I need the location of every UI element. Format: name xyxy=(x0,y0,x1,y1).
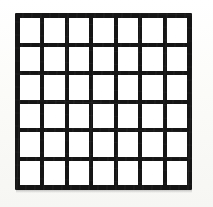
grid-cell-r5-c6 xyxy=(142,132,162,157)
grid-cell-r5-c7 xyxy=(167,132,187,157)
grid-cell-r6-c1 xyxy=(20,161,40,186)
grid-cell-r1-c1 xyxy=(20,18,40,43)
grid-cell-r3-c2 xyxy=(44,75,64,100)
grid-cell-r2-c2 xyxy=(44,47,64,72)
grid-cell-r4-c3 xyxy=(69,104,89,129)
grid-cell-r2-c5 xyxy=(118,47,138,72)
grid-cell-r1-c4 xyxy=(93,18,113,43)
grid-cell-r3-c3 xyxy=(69,75,89,100)
grid-cell-r1-c3 xyxy=(69,18,89,43)
grid-cell-r4-c1 xyxy=(20,104,40,129)
grid-cell-r2-c3 xyxy=(69,47,89,72)
figure-page xyxy=(0,0,213,207)
grid-cell-r3-c7 xyxy=(167,75,187,100)
grid-cell-r2-c4 xyxy=(93,47,113,72)
grid-cell-r5-c3 xyxy=(69,132,89,157)
grid-cell-r3-c1 xyxy=(20,75,40,100)
grid-cell-r1-c5 xyxy=(118,18,138,43)
grid-cell-r1-c2 xyxy=(44,18,64,43)
grid-cell-r3-c6 xyxy=(142,75,162,100)
grid-cell-r4-c2 xyxy=(44,104,64,129)
grid-cell-r1-c7 xyxy=(167,18,187,43)
grid-cell-r3-c4 xyxy=(93,75,113,100)
grid-cell-r5-c1 xyxy=(20,132,40,157)
grid-cell-r5-c2 xyxy=(44,132,64,157)
grid-cell-r6-c4 xyxy=(93,161,113,186)
grid-cell-r5-c4 xyxy=(93,132,113,157)
grid-cell-r4-c5 xyxy=(118,104,138,129)
figure-caption xyxy=(0,193,213,207)
grid-cell-r6-c3 xyxy=(69,161,89,186)
grid-cell-r6-c2 xyxy=(44,161,64,186)
grid-cell-r5-c5 xyxy=(118,132,138,157)
grid-cell-r2-c6 xyxy=(142,47,162,72)
grid-cell-r4-c7 xyxy=(167,104,187,129)
grid-figure xyxy=(15,13,192,190)
grid-cell-r6-c6 xyxy=(142,161,162,186)
grid-cell-r4-c4 xyxy=(93,104,113,129)
grid-cell-r1-c6 xyxy=(142,18,162,43)
grid-cell-r3-c5 xyxy=(118,75,138,100)
grid-cell-r6-c7 xyxy=(167,161,187,186)
grid-cell-r4-c6 xyxy=(142,104,162,129)
grid-cell-r2-c7 xyxy=(167,47,187,72)
grid-cell-r2-c1 xyxy=(20,47,40,72)
grid-cell-r6-c5 xyxy=(118,161,138,186)
